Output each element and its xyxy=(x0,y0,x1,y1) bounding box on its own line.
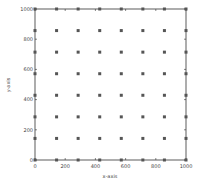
data-point xyxy=(98,29,101,32)
data-point xyxy=(185,137,188,140)
data-point xyxy=(141,159,144,162)
data-point xyxy=(98,51,101,54)
data-point xyxy=(77,159,80,162)
data-point xyxy=(163,8,166,11)
x-tick-label: 400 xyxy=(91,163,101,169)
y-tick-label: 400 xyxy=(23,96,33,102)
data-point xyxy=(55,51,58,54)
x-tick-label: 200 xyxy=(60,163,70,169)
data-point xyxy=(98,8,101,11)
data-point xyxy=(141,115,144,118)
data-point xyxy=(34,29,37,32)
data-point xyxy=(55,115,58,118)
data-point xyxy=(120,94,123,97)
data-point xyxy=(163,137,166,140)
data-points xyxy=(34,8,188,162)
data-point xyxy=(34,8,37,11)
data-point xyxy=(34,115,37,118)
data-point xyxy=(120,51,123,54)
data-point xyxy=(185,51,188,54)
data-point xyxy=(120,29,123,32)
y-tick-label: 800 xyxy=(23,36,33,42)
y-tick-label: 200 xyxy=(23,127,33,133)
data-point xyxy=(120,72,123,75)
x-tick-label: 800 xyxy=(151,163,161,169)
data-point xyxy=(34,137,37,140)
data-point xyxy=(77,29,80,32)
data-point xyxy=(34,94,37,97)
data-point xyxy=(141,94,144,97)
data-point xyxy=(98,115,101,118)
data-point xyxy=(163,72,166,75)
y-axis-label: y-axis xyxy=(5,77,12,92)
data-point xyxy=(185,94,188,97)
data-point xyxy=(141,8,144,11)
scatter-chart: 0200400600800100002004006008001000 x-axi… xyxy=(0,0,203,182)
data-point xyxy=(98,94,101,97)
data-point xyxy=(34,51,37,54)
data-point xyxy=(185,115,188,118)
data-point xyxy=(34,159,37,162)
data-point xyxy=(98,159,101,162)
data-point xyxy=(55,137,58,140)
data-point xyxy=(55,94,58,97)
y-tick-label: 600 xyxy=(23,66,33,72)
data-point xyxy=(77,115,80,118)
data-point xyxy=(77,94,80,97)
data-point xyxy=(185,8,188,11)
data-point xyxy=(55,159,58,162)
x-tick-label: 1000 xyxy=(180,163,193,169)
data-point xyxy=(185,159,188,162)
data-point xyxy=(55,72,58,75)
data-point xyxy=(163,94,166,97)
data-point xyxy=(55,8,58,11)
data-point xyxy=(141,137,144,140)
plot-area: 0200400600800100002004006008001000 x-axi… xyxy=(0,0,203,182)
data-point xyxy=(120,115,123,118)
x-tick-label: 600 xyxy=(121,163,131,169)
x-axis-label: x-axis xyxy=(103,173,118,179)
data-point xyxy=(120,159,123,162)
data-point xyxy=(163,29,166,32)
data-point xyxy=(77,8,80,11)
data-point xyxy=(77,72,80,75)
data-point xyxy=(185,29,188,32)
data-point xyxy=(55,29,58,32)
data-point xyxy=(185,72,188,75)
axis-ticks: 0200400600800100002004006008001000 xyxy=(20,6,192,169)
data-point xyxy=(141,51,144,54)
data-point xyxy=(120,8,123,11)
data-point xyxy=(163,115,166,118)
data-point xyxy=(163,51,166,54)
data-point xyxy=(77,51,80,54)
x-tick-label: 0 xyxy=(33,163,36,169)
data-point xyxy=(163,159,166,162)
data-point xyxy=(120,137,123,140)
y-tick-label: 1000 xyxy=(20,6,33,12)
data-point xyxy=(98,137,101,140)
data-point xyxy=(77,137,80,140)
data-point xyxy=(141,72,144,75)
data-point xyxy=(141,29,144,32)
data-point xyxy=(34,72,37,75)
y-tick-label: 0 xyxy=(30,157,33,163)
data-point xyxy=(98,72,101,75)
